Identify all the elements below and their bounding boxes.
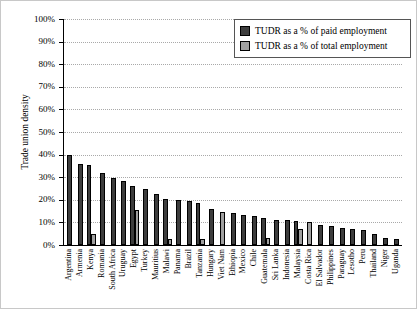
y-tick-mark-30 <box>59 177 63 178</box>
y-tick-mark-80 <box>59 64 63 65</box>
x-tick-label-panama: Panama <box>173 249 183 274</box>
bar-paid-el-salvador <box>318 225 323 245</box>
bar-paid-turkey <box>143 189 148 246</box>
x-tick-label-malawi: Malawi <box>162 249 172 273</box>
x-tick-label-kenya: Kenya <box>86 249 96 270</box>
x-tick-label-hungary: Hungary <box>206 249 216 277</box>
legend: TUDR as a % of paid employment TUDR as a… <box>234 19 411 58</box>
y-tick-mark-100 <box>59 19 63 20</box>
x-tick-label-uganda: Uganda <box>391 249 401 274</box>
x-tick-label-uruguay: Uruguay <box>118 249 128 277</box>
y-tick-label-80: 80% <box>19 59 55 69</box>
gridline-50 <box>64 132 402 133</box>
x-tick-label-south-africa: South Africa <box>108 249 118 290</box>
x-tick-label-costa-rica: Costa Rica <box>304 249 314 284</box>
x-tick-label-egypt: Egypt <box>129 249 139 268</box>
x-tick-label-tanzania: Tanzania <box>195 249 205 278</box>
y-tick-mark-70 <box>59 87 63 88</box>
bar-total-kenya <box>91 234 96 245</box>
bar-paid-ethiopia <box>231 213 236 245</box>
x-tick-label-lesotho: Lesotho <box>347 249 357 275</box>
y-tick-mark-50 <box>59 132 63 133</box>
x-tick-label-peru: Peru <box>358 249 368 264</box>
x-tick-label-brazil: Brazil <box>184 249 194 269</box>
bar-paid-uruguay <box>121 181 126 245</box>
y-tick-mark-90 <box>59 42 63 43</box>
trade-union-density-chart: Trade union density TUDR as a % of paid … <box>0 0 417 309</box>
x-tick-label-ethiopia: Ethiopia <box>228 249 238 276</box>
bar-paid-sri-lanka <box>274 220 279 245</box>
y-tick-label-40: 40% <box>19 149 55 159</box>
y-tick-mark-40 <box>59 155 63 156</box>
x-tick-label-paraguay: Paraguay <box>337 249 347 279</box>
y-tick-mark-0 <box>59 245 63 246</box>
bar-total-tanzania <box>200 239 205 245</box>
x-tick-label-mauritius: Mauritius <box>151 249 161 280</box>
x-tick-label-mexico: Mexico <box>238 249 248 273</box>
bar-total-guatemala <box>266 238 271 245</box>
y-tick-label-70: 70% <box>19 81 55 91</box>
x-tick-label-philippines: Philippines <box>326 249 336 285</box>
bar-paid-armenia <box>78 164 83 245</box>
bar-paid-chile <box>252 216 257 245</box>
paid-employment-swatch-icon <box>240 26 250 36</box>
y-tick-label-60: 60% <box>19 104 55 114</box>
bar-paid-romania <box>100 173 105 245</box>
x-tick-label-el-salvador: El Salvador <box>315 249 325 287</box>
bar-paid-niger <box>383 238 388 245</box>
legend-item-paid-employment: TUDR as a % of paid employment <box>240 23 405 38</box>
y-tick-mark-10 <box>59 222 63 223</box>
bar-paid-mauritius <box>154 194 159 245</box>
x-tick-label-thailand: Thailand <box>369 249 379 277</box>
bar-paid-indonesia <box>285 220 290 245</box>
x-tick-label-turkey: Turkey <box>140 249 150 272</box>
gridline-40 <box>64 155 402 156</box>
x-tick-label-sri-lanka: Sri Lanka <box>271 249 281 280</box>
x-tick-label-armenia: Armenia <box>75 249 85 277</box>
bar-paid-thailand <box>372 234 377 245</box>
bar-total-malawi <box>168 239 173 245</box>
y-tick-label-20: 20% <box>19 194 55 204</box>
bar-paid-mexico <box>241 215 246 246</box>
y-tick-label-100: 100% <box>19 14 55 24</box>
x-tick-label-argentina: Argentina <box>64 249 74 281</box>
total-employment-swatch-icon <box>240 41 250 51</box>
bar-paid-philippines <box>329 226 334 245</box>
legend-label-paid-employment: TUDR as a % of paid employment <box>255 26 387 36</box>
y-tick-mark-20 <box>59 200 63 201</box>
legend-item-total-employment: TUDR as a % of total employment <box>240 38 405 53</box>
bar-paid-south-africa <box>111 178 116 245</box>
bar-total-malaysia <box>298 229 303 245</box>
bar-paid-malawi <box>163 199 168 245</box>
y-tick-label-50: 50% <box>19 127 55 137</box>
y-tick-label-90: 90% <box>19 36 55 46</box>
bar-paid-uganda <box>394 239 399 245</box>
gridline-60 <box>64 109 402 110</box>
gridline-70 <box>64 87 402 88</box>
bar-total-egypt <box>135 210 140 245</box>
x-tick-label-malaysia: Malaysia <box>293 249 303 278</box>
bar-paid-peru <box>361 230 366 245</box>
bar-paid-paraguay <box>340 228 345 245</box>
bar-paid-hungary <box>209 209 214 245</box>
y-tick-label-30: 30% <box>19 172 55 182</box>
bar-paid-lesotho <box>350 229 355 245</box>
y-tick-mark-60 <box>59 109 63 110</box>
x-tick-label-romania: Romania <box>97 249 107 278</box>
x-tick-label-guatemala: Guatemala <box>260 249 270 284</box>
gridline-80 <box>64 64 402 65</box>
bar-paid-argentina <box>67 155 72 245</box>
y-tick-label-10: 10% <box>19 217 55 227</box>
bar-paid-brazil <box>187 201 192 245</box>
x-tick-label-indonesia: Indonesia <box>282 249 292 280</box>
x-tick-label-viet-nam: Viet Nam <box>217 249 227 280</box>
legend-label-total-employment: TUDR as a % of total employment <box>255 41 387 51</box>
bar-paid-panama <box>176 200 181 245</box>
bar-total-viet-nam <box>220 212 225 245</box>
y-tick-label-0: 0% <box>19 240 55 250</box>
x-tick-label-chile: Chile <box>249 249 259 266</box>
x-tick-label-niger: Niger <box>380 249 390 267</box>
bar-total-costa-rica <box>307 222 312 245</box>
